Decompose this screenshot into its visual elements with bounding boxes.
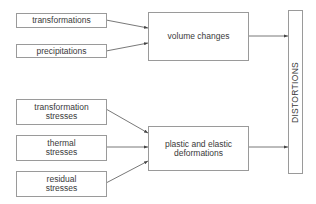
box-precipitations: precipitations xyxy=(16,44,107,58)
box-label: thermal stresses xyxy=(46,139,78,157)
arrow-transformation-stresses-to-deformations xyxy=(106,109,148,133)
box-label: precipitations xyxy=(36,47,86,56)
box-label: transformation stresses xyxy=(34,103,88,121)
box-distortions: DISTORTIONS xyxy=(288,10,303,174)
box-thermal-stresses: thermal stresses xyxy=(16,135,107,161)
box-label: transformations xyxy=(32,16,91,25)
box-transformation-stresses: transformation stresses xyxy=(16,99,107,125)
arrow-transformations-to-volume xyxy=(106,20,148,28)
box-transformations: transformations xyxy=(16,13,107,28)
box-label: DISTORTIONS xyxy=(291,61,300,122)
box-plastic-elastic-deformations: plastic and elastic deformations xyxy=(148,126,249,171)
box-label: plastic and elastic deformations xyxy=(165,140,232,158)
arrow-precipitations-to-volume xyxy=(106,43,148,51)
box-residual-stresses: residual stresses xyxy=(16,171,107,197)
box-label: volume changes xyxy=(168,32,230,41)
arrow-residual-stresses-to-deformations xyxy=(106,161,148,183)
box-label: residual stresses xyxy=(46,175,78,193)
box-volume-changes: volume changes xyxy=(148,12,249,61)
